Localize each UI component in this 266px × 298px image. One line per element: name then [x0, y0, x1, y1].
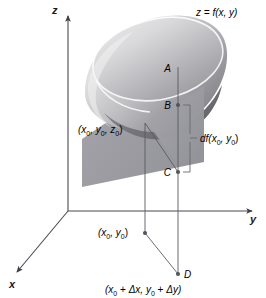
base-point-label: (x0, y0)	[98, 227, 128, 240]
surface-equation-label: z = f(x, y)	[195, 7, 237, 18]
point-marker-base	[143, 231, 147, 235]
increment-point-label: (x0 + Δx, y0 + Δy)	[105, 284, 181, 297]
x-axis-label: x	[8, 278, 16, 290]
point-marker-c	[176, 170, 180, 174]
point-label-a: A	[163, 63, 171, 74]
differential-label: df(x0, y0)	[200, 133, 238, 146]
point-marker-b	[176, 103, 180, 107]
point-marker-d	[176, 272, 180, 276]
figure-container: z = f(x, y) z y x A B C D (x0, y0, z0) (…	[0, 0, 266, 298]
point-label-c: C	[164, 167, 172, 178]
z-axis-label: z	[51, 4, 58, 16]
point-label-d: D	[184, 269, 191, 280]
y-axis-label: y	[249, 213, 257, 225]
x-axis	[17, 211, 68, 272]
ground-segment	[145, 233, 178, 274]
point-label-b: B	[164, 100, 171, 111]
diagram-svg: z = f(x, y) z y x A B C D (x0, y0, z0) (…	[0, 0, 266, 298]
